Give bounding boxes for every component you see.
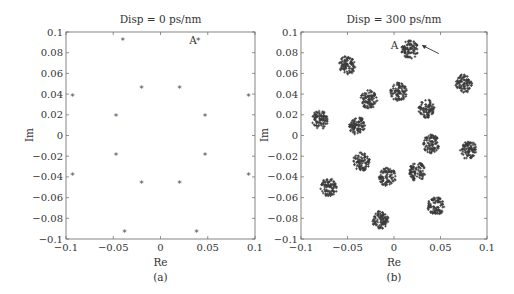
svg-text:0: 0 [292,130,298,141]
svg-text:−0.1: −0.1 [39,234,63,245]
svg-text:0.02: 0.02 [41,109,63,120]
svg-text:*: * [177,84,182,94]
svg-text:0.06: 0.06 [41,68,63,79]
panel-a-caption: (a) [153,271,167,283]
panel-b-annotation: A [390,39,399,51]
svg-text:*: * [114,112,119,122]
svg-text:0.08: 0.08 [276,47,298,58]
svg-text:−0.04: −0.04 [32,171,63,182]
svg-text:0.02: 0.02 [276,109,298,120]
svg-text:−0.04: −0.04 [267,171,298,182]
svg-text:−0.05: −0.05 [98,242,129,253]
svg-text:−0.08: −0.08 [267,213,298,224]
panel-b-disp-300: Disp = 300 ps/nm −0.1−0.0500.050.10.10.0… [258,13,495,283]
svg-text:0.05: 0.05 [197,242,219,253]
svg-text:0.05: 0.05 [429,242,451,253]
panel-a-title: Disp = 0 ps/nm [120,13,202,25]
svg-text:*: * [120,36,125,46]
svg-text:*: * [194,228,199,238]
panel-b-ylabel: Im [258,128,270,142]
svg-text:*: * [139,179,144,189]
panel-a-constellation: **************** [70,36,251,237]
svg-text:−0.08: −0.08 [32,213,63,224]
svg-text:−0.06: −0.06 [32,192,63,203]
panel-b-title: Disp = 300 ps/nm [346,13,441,25]
figure: Disp = 0 ps/nm −0.1−0.0500.050.10.10.080… [0,0,514,294]
svg-text:0.04: 0.04 [276,89,298,100]
svg-text:0.08: 0.08 [41,47,63,58]
svg-text:*: * [114,151,119,161]
svg-text:0.1: 0.1 [282,27,298,38]
svg-text:0.04: 0.04 [41,89,63,100]
svg-text:*: * [203,112,208,122]
panel-a-ylabel: Im [23,128,35,142]
panel-a-frame [66,32,255,239]
svg-text:*: * [246,92,251,102]
panel-a-ticks: −0.1−0.0500.050.10.10.080.060.040.020−0.… [32,27,263,254]
svg-text:*: * [177,179,182,189]
svg-text:0.1: 0.1 [479,242,495,253]
svg-text:0: 0 [157,242,163,253]
svg-text:−0.02: −0.02 [32,151,63,162]
panel-b-caption: (b) [387,271,402,283]
svg-text:*: * [70,92,75,102]
svg-text:*: * [246,171,251,181]
svg-text:0: 0 [391,242,397,253]
panel-a-xlabel: Re [153,256,167,268]
panel-b-xlabel: Re [387,256,401,268]
svg-text:*: * [203,151,208,161]
svg-text:*: * [139,84,144,94]
svg-text:−0.02: −0.02 [267,151,298,162]
svg-text:*: * [122,228,127,238]
panel-a-annotation: A [188,34,197,46]
panel-b-frame [301,32,487,239]
svg-text:0.1: 0.1 [47,27,63,38]
svg-text:0: 0 [57,130,63,141]
svg-text:−0.1: −0.1 [274,234,298,245]
svg-text:0.1: 0.1 [247,242,263,253]
svg-text:*: * [70,171,75,181]
svg-text:−0.06: −0.06 [267,192,298,203]
panel-b-annotation-arrow-icon [422,45,439,54]
panel-a-disp-0: Disp = 0 ps/nm −0.1−0.0500.050.10.10.080… [23,13,263,283]
svg-text:−0.05: −0.05 [332,242,363,253]
svg-text:0.06: 0.06 [276,68,298,79]
panel-b-clusters [311,39,477,229]
